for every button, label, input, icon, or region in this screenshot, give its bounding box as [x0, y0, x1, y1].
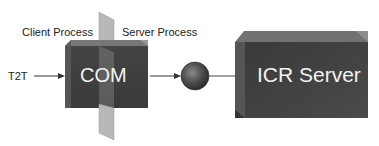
t2t-arrow [34, 73, 65, 79]
server-process-label: Server Process [122, 26, 197, 38]
com-label: COM [80, 64, 127, 87]
t2t-label: T2T [8, 70, 28, 82]
client-process-label: Client Process [22, 26, 93, 38]
process-boundary-plane-lower [99, 46, 114, 140]
com-to-interface-arrow [150, 73, 181, 79]
interface-sphere [181, 62, 209, 90]
icr-server-label: ICR Server [257, 63, 361, 87]
